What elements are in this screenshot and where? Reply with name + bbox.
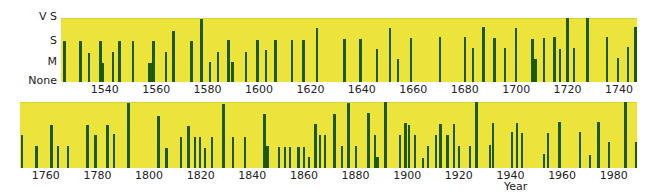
x-tick-label: 1620: [296, 84, 324, 96]
event-bar: [112, 52, 114, 82]
y-label-moderate: M: [5, 56, 57, 68]
event-bar: [573, 48, 575, 82]
event-bar: [439, 37, 441, 82]
event-bar: [579, 132, 581, 168]
y-label-very-severe: V S: [5, 11, 57, 23]
event-bar: [435, 135, 437, 168]
event-bar: [204, 148, 206, 168]
x-tick-label: 1640: [348, 84, 376, 96]
x-tick-label: 1820: [187, 170, 215, 182]
event-bar: [404, 123, 407, 168]
x-tick-label: 1840: [238, 170, 266, 182]
event-bar: [297, 147, 300, 168]
event-bar: [35, 146, 38, 168]
event-bar: [232, 137, 234, 168]
event-bar: [515, 28, 517, 82]
event-bar: [152, 41, 155, 82]
event-bar: [190, 41, 193, 82]
event-bar: [316, 28, 318, 82]
event-bar: [157, 116, 160, 168]
event-bar: [217, 52, 219, 82]
event-bar: [376, 49, 378, 82]
event-bar: [427, 146, 429, 168]
y-label-none: None: [5, 75, 57, 87]
x-tick-label: 1600: [245, 84, 273, 96]
event-bar: [67, 146, 69, 168]
event-bar: [422, 158, 424, 168]
event-bar: [244, 137, 246, 168]
chart-bottom-panel: [20, 102, 637, 168]
x-axis-title: Year: [504, 181, 527, 193]
event-bar: [489, 145, 491, 168]
x-tick-label: 1560: [142, 84, 170, 96]
event-bar: [399, 135, 401, 168]
event-bar: [199, 137, 201, 168]
event-bar: [284, 147, 286, 168]
event-bar: [492, 123, 494, 168]
event-bar: [79, 41, 82, 82]
event-bar: [559, 49, 561, 82]
event-bar: [410, 38, 412, 82]
event-bar: [303, 147, 305, 168]
event-bar: [475, 102, 478, 168]
event-bar: [389, 28, 391, 82]
x-tick-label: 1880: [342, 170, 370, 182]
event-bar: [165, 52, 167, 82]
event-bar: [397, 59, 399, 82]
x-tick-label: 1740: [605, 84, 633, 96]
event-bar: [200, 19, 203, 82]
event-bar: [101, 63, 104, 82]
event-bar: [291, 40, 293, 82]
event-bar: [458, 146, 460, 168]
event-bar: [627, 47, 629, 82]
event-bar: [439, 124, 442, 168]
event-bar: [624, 102, 627, 168]
x-tick-label: 1720: [554, 84, 582, 96]
event-bar: [172, 31, 175, 82]
event-bar: [333, 114, 336, 168]
event-bar: [453, 124, 455, 168]
x-tick-label: 1860: [290, 170, 318, 182]
event-bar: [180, 137, 182, 168]
event-bar: [319, 135, 321, 168]
event-bar: [589, 155, 591, 168]
event-bar: [88, 53, 90, 82]
event-bar: [278, 147, 280, 168]
event-bar: [106, 125, 109, 168]
event-bar: [132, 41, 134, 82]
event-bar: [127, 103, 130, 168]
event-bar: [586, 18, 589, 82]
event-bar: [367, 113, 370, 168]
event-bar: [324, 135, 326, 168]
event-bar: [314, 124, 317, 168]
event-bar: [308, 157, 310, 168]
event-bar: [187, 126, 190, 168]
event-bar: [222, 104, 225, 168]
event-bar: [355, 146, 357, 168]
event-bar: [265, 50, 267, 82]
event-bar: [21, 135, 23, 168]
event-bar: [516, 123, 518, 168]
event-bar: [57, 146, 59, 168]
event-bar: [50, 125, 53, 168]
event-bar: [469, 146, 471, 168]
x-tick-label: 1700: [502, 84, 530, 96]
event-bar: [543, 38, 545, 82]
event-bar: [343, 39, 346, 82]
x-tick-label: 1780: [83, 170, 111, 182]
event-bar: [482, 27, 485, 82]
x-tick-label: 1980: [600, 170, 628, 182]
event-bar: [94, 135, 97, 168]
event-bar: [464, 37, 466, 82]
event-bar: [384, 102, 387, 168]
event-bar: [194, 137, 196, 168]
x-tick-label: 1540: [91, 84, 119, 96]
event-bar: [165, 148, 168, 168]
event-bar: [606, 37, 608, 82]
event-bar: [289, 147, 291, 168]
x-tick-label: 1800: [135, 170, 163, 182]
x-tick-label: 1900: [393, 170, 421, 182]
event-bar: [472, 48, 474, 82]
event-bar: [256, 40, 259, 82]
event-bar: [227, 40, 230, 82]
